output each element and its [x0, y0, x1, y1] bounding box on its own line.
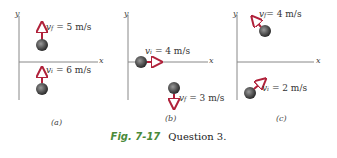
ball-a-final — [36, 39, 48, 51]
vector-label-vi-a: vi = 6 m/s — [46, 65, 91, 75]
ball-b-initial — [135, 56, 147, 68]
panel-b-graphics — [128, 15, 208, 104]
axis-label-x-c: x — [316, 56, 321, 65]
figure-caption-text: Question 3. — [168, 131, 226, 142]
vector-label-vf-b: vf = 3 m/s — [179, 93, 224, 103]
vector-label-vi-b: vi = 4 m/s — [145, 46, 190, 56]
panel-label-b: (b) — [165, 114, 176, 123]
panel-label-a: (a) — [51, 118, 62, 127]
axis-label-y-b: y — [124, 9, 129, 18]
figure-number: Fig. 7-17 — [111, 131, 161, 142]
axis-label-y-a: y — [15, 9, 20, 18]
vector-label-vi-c: vi = 2 m/s — [262, 83, 307, 93]
vector-label-vf-c: vf= 4 m/s — [259, 9, 302, 19]
vector-label-vf-a: vf = 5 m/s — [46, 22, 91, 32]
panel-label-c: (c) — [276, 114, 287, 123]
figure-caption: Fig. 7-17Question 3. — [0, 131, 337, 142]
axis-label-y-c: y — [233, 9, 238, 18]
arrow-vi-c — [254, 82, 262, 89]
arrow-vf-c — [255, 20, 261, 27]
ball-a-initial — [36, 83, 48, 95]
axis-label-x-b: x — [209, 56, 214, 65]
axis-label-x-a: x — [99, 56, 104, 65]
